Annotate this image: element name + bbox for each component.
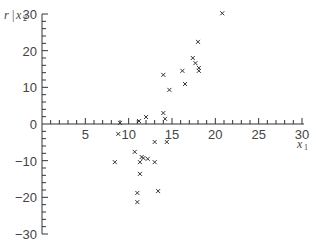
data-point-x-marker [193, 61, 197, 65]
x-tick-label: 5 [82, 127, 89, 142]
x-tick-label: 10 [121, 127, 135, 142]
data-point-x-marker [153, 160, 157, 164]
y-tick-label: −30 [15, 227, 37, 241]
y-axis-title-sub: 2 [23, 14, 27, 23]
x-tick-label: 15 [165, 127, 179, 142]
y-axis-title-x: x [15, 8, 22, 22]
data-point-x-marker [138, 160, 142, 164]
data-point-x-marker [141, 156, 145, 160]
x-tick-label: 25 [251, 127, 265, 142]
data-point-x-marker [113, 160, 117, 164]
y-tick-label: −10 [15, 154, 37, 169]
data-point-x-marker [161, 111, 165, 115]
scatter-chart: 3020100−10−20−30 51015202530 r | x 2 x 1 [0, 0, 316, 241]
data-point-x-marker [116, 132, 120, 136]
data-point-x-marker [133, 150, 137, 154]
data-points [113, 11, 224, 204]
x-axis-title-x: x [296, 137, 303, 151]
y-tick-label: −20 [15, 190, 37, 205]
y-axis-title-bar: | [12, 8, 14, 22]
data-point-x-marker [191, 56, 195, 60]
x-axis-title-sub: 1 [304, 143, 308, 152]
data-point-x-marker [163, 117, 167, 121]
data-point-x-marker [153, 140, 157, 144]
data-point-x-marker [135, 191, 139, 195]
data-point-x-marker [220, 11, 224, 15]
y-axis-title-r: r [4, 8, 9, 22]
data-point-x-marker [180, 69, 184, 73]
y-tick-label: 20 [23, 44, 37, 59]
data-point-x-marker [138, 172, 142, 176]
y-tick-label: 10 [23, 80, 37, 95]
data-point-x-marker [161, 73, 165, 77]
data-point-x-marker [156, 189, 160, 193]
data-point-x-marker [197, 69, 201, 73]
y-tick-label: 0 [30, 117, 37, 132]
data-point-x-marker [183, 82, 187, 86]
data-point-x-marker [146, 157, 150, 161]
x-axis: 51015202530 [42, 118, 309, 142]
data-point-x-marker [167, 88, 171, 92]
x-tick-label: 20 [208, 127, 222, 142]
data-point-x-marker [135, 200, 139, 204]
data-point-x-marker [144, 115, 148, 119]
data-point-x-marker [196, 40, 200, 44]
